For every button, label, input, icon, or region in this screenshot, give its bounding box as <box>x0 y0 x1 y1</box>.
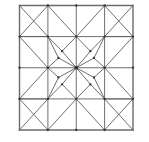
tessellation-vertex <box>18 98 20 100</box>
tessellation-vertex <box>93 76 95 78</box>
tessellation-vertex <box>57 57 59 59</box>
tessellation-vertex <box>103 35 105 37</box>
tessellation-vertex <box>47 129 49 131</box>
center-hub-vertex <box>75 66 78 69</box>
figure-background <box>0 0 149 142</box>
tessellation-vertex <box>103 4 105 6</box>
tessellation-vertex <box>75 129 77 131</box>
tessellation-vertex <box>75 35 77 37</box>
tessellation-vertex <box>47 4 49 6</box>
tessellation-vertex <box>61 83 63 85</box>
tessellation-vertex <box>61 50 63 52</box>
tessellation-vertex <box>93 57 95 59</box>
tessellation-vertex <box>132 35 134 37</box>
figure-root: Geometric Star Tessellation Line-art squ… <box>0 0 149 142</box>
tessellation-vertex <box>75 4 77 6</box>
tessellation-vertex <box>18 67 20 69</box>
tessellation-vertex <box>132 98 134 100</box>
tessellation-vertex <box>18 35 20 37</box>
tessellation-vertex <box>57 76 59 78</box>
tessellation-vertex <box>132 67 134 69</box>
tessellation-vertex <box>103 129 105 131</box>
geometric-tessellation-figure: Geometric Star Tessellation Line-art squ… <box>0 0 149 142</box>
tessellation-vertex <box>103 98 105 100</box>
tessellation-vertex <box>103 67 105 69</box>
tessellation-vertex <box>89 83 91 85</box>
tessellation-vertex <box>75 98 77 100</box>
tessellation-vertex <box>47 35 49 37</box>
tessellation-vertex <box>47 67 49 69</box>
tessellation-vertex <box>47 98 49 100</box>
tessellation-vertex <box>89 50 91 52</box>
